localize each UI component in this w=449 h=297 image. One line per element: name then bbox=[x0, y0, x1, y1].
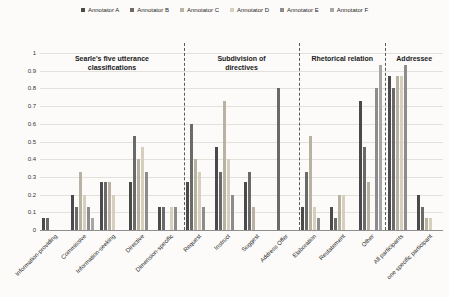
x-axis-label: Dimension-specific bbox=[113, 233, 174, 294]
bar bbox=[145, 172, 148, 230]
x-axis-label: Elaboration bbox=[257, 233, 318, 294]
bar bbox=[104, 182, 107, 230]
y-tick-label: 0.5 bbox=[6, 139, 36, 145]
legend-swatch-icon bbox=[180, 8, 184, 12]
category: All participants bbox=[385, 53, 414, 230]
bar-cluster bbox=[42, 218, 66, 230]
x-axis-label: Other bbox=[314, 233, 375, 294]
legend-item: Annotator E bbox=[280, 7, 319, 13]
legend-label: Annotator E bbox=[287, 7, 319, 13]
bar-cluster bbox=[71, 172, 95, 230]
bar bbox=[330, 207, 333, 230]
bar bbox=[277, 88, 280, 230]
bar bbox=[429, 218, 432, 230]
bar-cluster bbox=[273, 88, 297, 230]
bar bbox=[170, 207, 173, 230]
bar bbox=[194, 159, 197, 230]
legend-swatch-icon bbox=[130, 8, 134, 12]
bar bbox=[244, 182, 247, 230]
category: Information-seeking bbox=[98, 53, 127, 230]
bar bbox=[202, 207, 205, 230]
bar bbox=[112, 195, 115, 230]
bar bbox=[400, 76, 403, 230]
bar bbox=[248, 172, 251, 230]
y-tick-label: 0.6 bbox=[6, 121, 36, 127]
bar bbox=[375, 88, 378, 230]
bar bbox=[91, 218, 94, 230]
bar-cluster bbox=[215, 101, 239, 230]
category: Commissive bbox=[69, 53, 98, 230]
legend-label: Annotator B bbox=[137, 7, 169, 13]
bar bbox=[190, 124, 193, 230]
bar bbox=[141, 147, 144, 230]
bar bbox=[223, 101, 226, 230]
bar bbox=[42, 218, 45, 230]
y-tick-label: 0.1 bbox=[6, 209, 36, 215]
bar bbox=[108, 182, 111, 230]
legend-swatch-icon bbox=[230, 8, 234, 12]
bar bbox=[219, 172, 222, 230]
bar bbox=[227, 159, 230, 230]
bar bbox=[309, 136, 312, 230]
legend-item: Annotator A bbox=[81, 7, 119, 13]
bar-cluster bbox=[388, 65, 412, 230]
category: Elaboration bbox=[299, 53, 328, 230]
bar-cluster bbox=[301, 136, 325, 230]
category: Restatement bbox=[328, 53, 357, 230]
bar bbox=[133, 136, 136, 230]
plot-area: 00.10.20.30.40.50.60.70.80.91Searle's fi… bbox=[40, 53, 443, 231]
bar bbox=[301, 207, 304, 230]
bar bbox=[83, 195, 86, 230]
y-tick-label: 0.3 bbox=[6, 174, 36, 180]
bar-chart: Annotator AAnnotator BAnnotator CAnnotat… bbox=[0, 0, 449, 297]
bar-cluster bbox=[129, 136, 153, 230]
y-tick-label: 1 bbox=[6, 50, 36, 56]
bar bbox=[186, 182, 189, 230]
x-axis-label: Address Offer bbox=[228, 233, 289, 294]
bar bbox=[425, 218, 428, 230]
legend: Annotator AAnnotator BAnnotator CAnnotat… bbox=[0, 7, 449, 13]
legend-swatch-icon bbox=[330, 8, 334, 12]
bar bbox=[363, 147, 366, 230]
bar bbox=[417, 195, 420, 230]
bar-cluster bbox=[417, 195, 441, 230]
bar-cluster bbox=[158, 207, 182, 230]
x-axis-label: Directive bbox=[84, 233, 145, 294]
category: Address Offer bbox=[270, 53, 299, 230]
bar bbox=[396, 76, 399, 230]
legend-swatch-icon bbox=[81, 8, 85, 12]
bar bbox=[359, 101, 362, 230]
bar bbox=[305, 172, 308, 230]
category: Directive bbox=[126, 53, 155, 230]
x-axis-label: Suggest bbox=[199, 233, 260, 294]
bar bbox=[313, 207, 316, 230]
x-axis-label: Request bbox=[142, 233, 203, 294]
y-tick-label: 0.7 bbox=[6, 103, 36, 109]
bar bbox=[392, 88, 395, 230]
bar bbox=[71, 195, 74, 230]
category: Other bbox=[357, 53, 386, 230]
bar-cluster bbox=[186, 124, 210, 230]
category: one specific participant bbox=[414, 53, 443, 230]
x-axis-label: Information-providing bbox=[0, 233, 59, 294]
bar-cluster bbox=[359, 65, 383, 230]
legend-item: Annotator D bbox=[230, 7, 269, 13]
bar bbox=[87, 207, 90, 230]
bar bbox=[367, 182, 370, 230]
bar bbox=[215, 147, 218, 230]
category: Suggest bbox=[242, 53, 271, 230]
bar bbox=[137, 159, 140, 230]
x-axis-label: Information-seeking bbox=[55, 233, 116, 294]
x-axis-label: Commissive bbox=[27, 233, 88, 294]
bar bbox=[198, 172, 201, 230]
legend-item: Annotator B bbox=[130, 7, 169, 13]
bar bbox=[158, 207, 161, 230]
bar bbox=[46, 218, 49, 230]
x-axis-label: Restatement bbox=[286, 233, 347, 294]
bar bbox=[342, 195, 345, 230]
legend-swatch-icon bbox=[280, 8, 284, 12]
bar bbox=[388, 76, 391, 230]
legend-label: Annotator D bbox=[237, 7, 269, 13]
category: Information-providing bbox=[40, 53, 69, 230]
x-axis-label: one specific participant bbox=[372, 233, 433, 294]
